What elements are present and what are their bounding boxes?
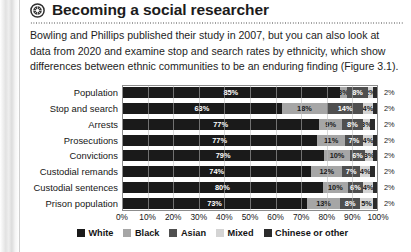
bar-segment-asian: 6% (350, 150, 365, 161)
legend-swatch-asian (169, 229, 177, 237)
bar-segment-mixed: 5% (360, 198, 373, 209)
legend-label: Black (135, 228, 160, 238)
legend-swatch-black (123, 229, 131, 237)
bar-segment-asian: 6% (348, 182, 363, 193)
bar-outside-label: 2% (384, 135, 395, 146)
bar-segment-white: 77% (122, 119, 319, 130)
legend-label: Chinese or other (275, 228, 348, 238)
bar-segment-mixed: 3% (363, 119, 371, 130)
x-axis-tick-label: 100% (367, 212, 388, 222)
bar-track: 77%9%8%3%2% (122, 117, 403, 133)
bar-segment-chinese (370, 166, 375, 177)
bar-track: 80%10%6%4%2% (122, 180, 403, 196)
bar-segment-black: 9% (319, 119, 342, 130)
category-label: Arrests (22, 119, 122, 130)
bar-segment-asian: 8% (340, 198, 360, 209)
bar-segment-black: 11% (317, 135, 345, 146)
x-axis-tick-label: 0% (116, 212, 128, 222)
legend-label: Asian (181, 228, 206, 238)
chart-row: Prison population73%13%8%5%2% (22, 195, 403, 211)
category-label: Prosecutions (22, 135, 122, 146)
chart-rows: Population85%3%8%2%2%Stop and search63%1… (22, 85, 403, 211)
category-label: Stop and search (22, 103, 122, 114)
stacked-bar: 63%18%14%4% (122, 103, 378, 114)
x-axis-tick-label: 40% (216, 212, 233, 222)
x-axis-tick-label: 30% (190, 212, 207, 222)
category-label: Prison population (22, 198, 122, 209)
chart-row: Stop and search63%18%14%4%2% (22, 101, 403, 117)
bar-outside-label: 2% (384, 198, 395, 209)
page-title: Becoming a social researcher (52, 1, 269, 19)
bar-segment-mixed: 4% (363, 135, 373, 146)
bar-segment-white: 74% (122, 166, 311, 177)
x-axis-tick-label: 50% (242, 212, 259, 222)
bar-segment-black: 3% (340, 87, 348, 98)
x-axis-tick-label: 90% (344, 212, 361, 222)
globe-emblem-icon (30, 3, 45, 18)
bar-outside-label: 2% (384, 150, 395, 161)
stacked-bar: 80%10%6%4% (122, 182, 378, 193)
bar-track: 79%10%6%3%2% (122, 148, 403, 164)
legend-item: Chinese or other (264, 228, 349, 238)
stacked-bar: 77%11%7%4% (122, 135, 378, 146)
bar-segment-chinese (373, 87, 378, 98)
bar-segment-asian: 8% (342, 119, 362, 130)
category-label: Custodial remands (22, 166, 122, 177)
bar-segment-mixed: 4% (363, 103, 373, 114)
bar-segment-black: 12% (311, 166, 342, 177)
bar-segment-chinese (370, 119, 375, 130)
legend-item: White (77, 228, 114, 238)
bar-segment-white: 73% (122, 198, 307, 209)
bar-segment-mixed: 4% (360, 166, 370, 177)
section-header: Becoming a social researcher (30, 1, 269, 19)
bar-outside-label: 2% (384, 182, 395, 193)
chart-row: Arrests77%9%8%3%2% (22, 117, 403, 133)
chart-row: Population85%3%8%2%2% (22, 85, 403, 101)
bar-segment-chinese (373, 135, 378, 146)
book-gutter-shading (0, 0, 19, 252)
x-axis-tick-label: 10% (139, 212, 156, 222)
bar-track: 85%3%8%2%2% (122, 85, 403, 101)
bar-segment-chinese (373, 198, 378, 209)
bar-segment-mixed: 3% (365, 150, 373, 161)
bar-segment-white: 79% (122, 150, 324, 161)
chart-row: Custodial sentences80%10%6%4%2% (22, 180, 403, 196)
legend-item: Black (123, 228, 159, 238)
legend-label: White (88, 228, 113, 238)
stacked-bar: 73%13%8%5% (122, 198, 378, 209)
x-axis-tick-label: 20% (165, 212, 182, 222)
figure-3-1-stacked-bar-chart: Population85%3%8%2%2%Stop and search63%1… (22, 85, 403, 245)
category-label: Population (22, 87, 122, 98)
bar-segment-chinese (373, 103, 378, 114)
bar-track: 77%11%7%4%2% (122, 132, 403, 148)
bar-outside-label: 2% (384, 103, 395, 114)
book-gutter-edge (19, 0, 20, 252)
legend-label: Mixed (228, 228, 254, 238)
stacked-bar: 85%3%8%2% (122, 87, 378, 98)
bar-segment-black: 13% (307, 198, 340, 209)
category-label: Convictions (22, 150, 122, 161)
legend-item: Mixed (216, 228, 254, 238)
bar-segment-asian: 7% (345, 135, 363, 146)
legend-swatch-chinese (264, 229, 272, 237)
bar-segment-white: 63% (122, 103, 282, 114)
bar-segment-white: 85% (122, 87, 340, 98)
chart-row: Custodial remands74%12%7%4%2% (22, 164, 403, 180)
bar-segment-asian: 14% (327, 103, 362, 114)
bar-outside-label: 2% (384, 119, 395, 130)
x-axis-tick-label: 70% (293, 212, 310, 222)
stacked-bar: 77%9%8%3% (122, 119, 378, 130)
bar-segment-white: 77% (122, 135, 317, 146)
chart-row: Convictions79%10%6%3%2% (22, 148, 403, 164)
stacked-bar: 79%10%6%3% (122, 150, 378, 161)
bar-segment-chinese (373, 182, 378, 193)
legend-swatch-mixed (216, 229, 224, 237)
bar-segment-asian: 8% (347, 87, 367, 98)
bar-segment-black: 18% (282, 103, 328, 114)
stacked-bar: 74%12%7%4% (122, 166, 378, 177)
legend-swatch-white (77, 229, 85, 237)
bar-segment-black: 10% (324, 150, 350, 161)
chart-legend: WhiteBlackAsianMixedChinese or other (22, 228, 403, 238)
bar-outside-label: 2% (384, 87, 395, 98)
chart-row: Prosecutions77%11%7%4%2% (22, 132, 403, 148)
